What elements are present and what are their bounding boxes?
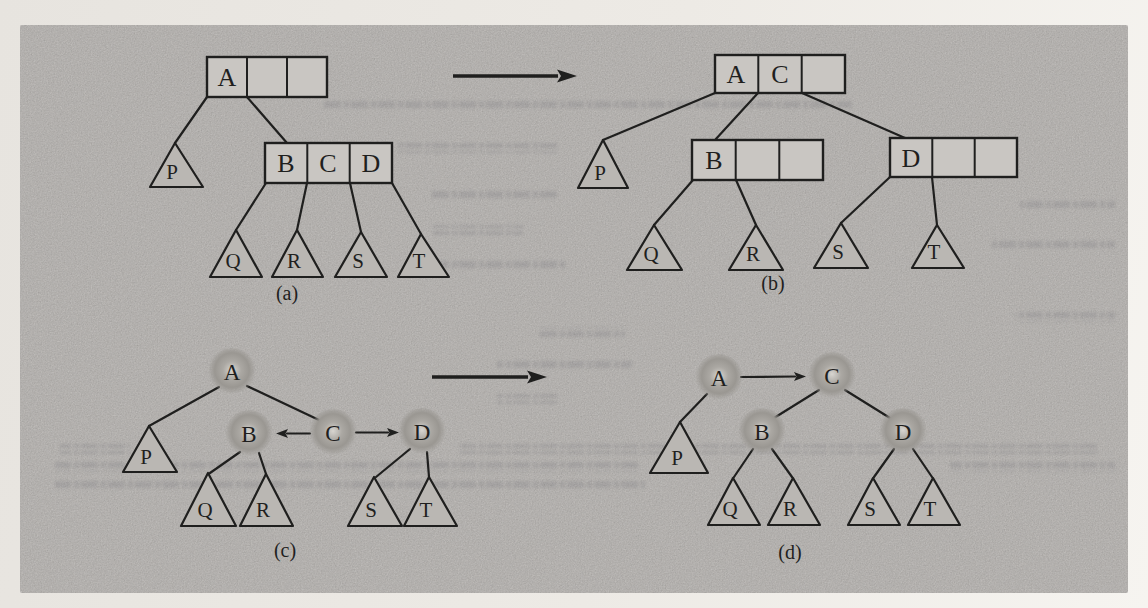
caption-a: (a) <box>276 282 298 305</box>
node-label: D <box>414 420 431 445</box>
subtree-label: S <box>365 498 377 522</box>
key-cell-text: A <box>218 63 237 92</box>
subtree-label: R <box>287 249 301 273</box>
key-cell-text: B <box>705 146 722 175</box>
key-cell-text: B <box>277 149 294 178</box>
subtree-label: T <box>420 498 433 522</box>
btree-node-a-root: A <box>207 57 327 97</box>
node-label: B <box>241 422 256 447</box>
node-label: A <box>224 360 241 385</box>
grain-overlay-light <box>20 25 1128 593</box>
subtree-label: S <box>864 497 876 521</box>
subtree-label: S <box>832 240 844 264</box>
btree-node-b-left: B <box>692 140 823 180</box>
subtree-label: Q <box>643 242 658 266</box>
node-label: C <box>824 364 839 389</box>
node-label: C <box>325 421 340 446</box>
caption-b: (b) <box>761 272 784 295</box>
subtree-label: Q <box>722 497 737 521</box>
subtree-label: P <box>671 446 683 470</box>
btree-node-b-root: A C <box>715 55 845 93</box>
key-cell-text: D <box>902 144 921 173</box>
btree-node-a-child: B C D <box>265 143 392 183</box>
btree-node-b-right: D <box>890 138 1017 177</box>
key-cell-text: D <box>362 149 381 178</box>
key-cell-text: A <box>727 60 746 89</box>
caption-c: (c) <box>274 539 296 562</box>
subtree-label: P <box>166 160 178 184</box>
subtree-label: S <box>352 249 364 273</box>
node-label: D <box>895 420 912 445</box>
subtree-label: T <box>924 497 937 521</box>
subtree-label: R <box>783 497 797 521</box>
scanned-page: A B C D P Q R S T (a) <box>0 0 1148 608</box>
subtree-label: Q <box>225 249 240 273</box>
subtree-label: P <box>140 445 152 469</box>
subtree-label: P <box>594 161 606 185</box>
key-cell-text: C <box>319 149 336 178</box>
subtree-label: T <box>413 249 426 273</box>
node-label: B <box>754 420 769 445</box>
subtree-label: T <box>928 240 941 264</box>
subtree-label: R <box>256 498 270 522</box>
node-label: A <box>711 366 728 391</box>
key-cell-text: C <box>771 60 788 89</box>
figure-canvas: A B C D P Q R S T (a) <box>0 0 1148 608</box>
caption-d: (d) <box>778 541 801 564</box>
pointer-arrow-a-to-c <box>741 377 795 378</box>
subtree-label: Q <box>197 498 212 522</box>
subtree-label: R <box>746 242 760 266</box>
